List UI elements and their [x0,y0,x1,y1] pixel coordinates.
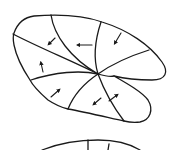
divider-mid-left [31,72,98,80]
divider-top-left [13,34,98,74]
second-shape-top-edge [42,140,140,150]
divider-right-upper [98,50,149,74]
arrow-icon-lower-mid [94,98,101,104]
arrow-icon-upper-right [115,33,121,43]
divider-right-lower [98,74,114,76]
diagram-canvas [0,0,171,150]
divider-lower-mid [68,74,98,109]
divider-lower-right [98,74,124,121]
divider-top-right [95,22,101,74]
arrow-icon-lower-right [109,95,117,101]
arrow-icon-mid-left [41,63,43,72]
arrow-icon-lower-left [51,90,59,97]
second-shape-divider-2 [108,144,109,150]
arrow-icon-upper-left [49,38,55,44]
